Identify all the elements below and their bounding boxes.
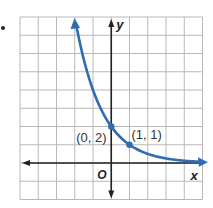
point-label-1-1: (1, 1) [132, 127, 162, 142]
x-axis-label: x [190, 168, 199, 183]
point-label-0-2: (0, 2) [76, 130, 106, 145]
exponential-graph: y x O (0, 2) (1, 1) [0, 0, 213, 208]
origin-label: O [97, 168, 107, 182]
y-axis-label: y [115, 17, 124, 32]
